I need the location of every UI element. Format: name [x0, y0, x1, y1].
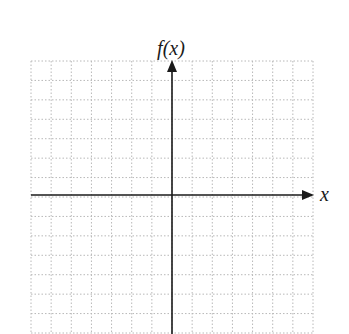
y-axis-arrow-icon: [167, 60, 177, 72]
coordinate-plane: f(x) x: [0, 0, 349, 334]
coordinate-plane-figure: f(x) x: [0, 0, 349, 334]
x-axis-arrow-icon: [302, 190, 314, 200]
y-axis-label: f(x): [157, 37, 185, 60]
x-axis-label: x: [319, 183, 329, 205]
